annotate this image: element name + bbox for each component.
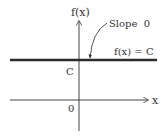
slope-annotation: Slope 0 [109, 18, 150, 29]
intercept-label: C [66, 66, 74, 77]
x-axis-label: x [152, 94, 159, 107]
slope-pointer-arrow [90, 23, 107, 58]
y-axis-label: f(x) [71, 6, 90, 19]
constant-function-diagram: f(x) x 0 C Slope 0 f(x) = C [0, 0, 166, 139]
origin-label: 0 [68, 103, 74, 114]
function-label: f(x) = C [114, 46, 154, 57]
